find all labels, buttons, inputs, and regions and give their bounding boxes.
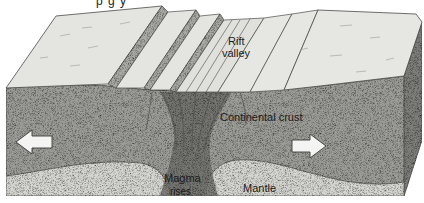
rift-block-diagram bbox=[0, 0, 424, 203]
label-valley: valley bbox=[222, 48, 250, 59]
caption-fragment: p g y bbox=[96, 0, 127, 8]
label-rises: rises bbox=[170, 186, 191, 197]
label-mantle: Mantle bbox=[243, 183, 276, 194]
label-continental-crust: Continental crust bbox=[220, 112, 303, 123]
label-magma: Magma bbox=[164, 173, 201, 184]
label-rift: Rift bbox=[228, 36, 245, 47]
